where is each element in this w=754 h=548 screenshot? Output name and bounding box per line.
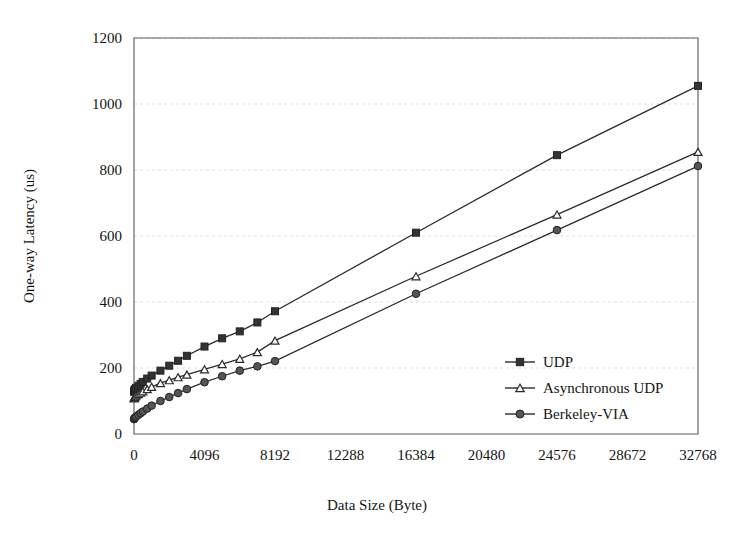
marker-filled-circle (183, 385, 191, 393)
marker-filled-square (157, 367, 164, 374)
y-tick-label: 0 (115, 426, 123, 442)
marker-filled-square (166, 362, 173, 369)
marker-filled-square (219, 335, 226, 342)
marker-filled-circle (271, 357, 279, 365)
marker-filled-circle (254, 363, 262, 371)
y-tick-label: 400 (100, 294, 123, 310)
marker-filled-circle (553, 226, 561, 234)
marker-filled-square (236, 328, 243, 335)
marker-filled-circle (165, 393, 173, 401)
x-tick-label: 28672 (609, 447, 647, 463)
latency-line-chart: 020040060080010001200 040968192122881638… (0, 0, 754, 548)
legend-label: Berkeley-VIA (543, 406, 629, 422)
marker-filled-square (201, 343, 208, 350)
y-tick-label: 1000 (92, 96, 122, 112)
x-tick-label: 12288 (327, 447, 365, 463)
marker-filled-square (183, 352, 190, 359)
x-tick-label: 32768 (679, 447, 717, 463)
y-tick-label: 1200 (92, 30, 122, 46)
x-axis-tick-labels: 040968192122881638420480245762867232768 (130, 447, 717, 463)
marker-filled-circle (236, 367, 244, 375)
marker-filled-square (413, 229, 420, 236)
marker-filled-circle (201, 378, 209, 386)
y-tick-label: 800 (100, 162, 123, 178)
marker-filled-square (175, 357, 182, 364)
x-tick-label: 24576 (538, 447, 576, 463)
x-axis-title: Data Size (Byte) (327, 497, 427, 514)
marker-filled-square (516, 358, 523, 365)
y-tick-label: 600 (100, 228, 123, 244)
x-tick-label: 8192 (260, 447, 290, 463)
marker-filled-circle (516, 410, 524, 418)
marker-filled-circle (218, 372, 226, 380)
chart-background (0, 0, 754, 548)
legend-label: Asynchronous UDP (543, 380, 663, 396)
marker-filled-circle (174, 389, 182, 397)
marker-filled-square (554, 152, 561, 159)
y-tick-label: 200 (100, 360, 123, 376)
x-tick-label: 0 (130, 447, 138, 463)
marker-filled-circle (694, 162, 702, 170)
marker-filled-circle (148, 402, 156, 410)
x-tick-label: 4096 (190, 447, 221, 463)
x-tick-label: 16384 (397, 447, 435, 463)
marker-filled-square (148, 372, 155, 379)
y-axis-title: One-way Latency (us) (21, 169, 38, 303)
marker-filled-circle (412, 290, 420, 298)
x-tick-label: 20480 (468, 447, 506, 463)
marker-filled-square (695, 82, 702, 89)
chart-container: 020040060080010001200 040968192122881638… (0, 0, 754, 548)
legend-label: UDP (543, 354, 573, 370)
marker-filled-circle (157, 397, 165, 405)
marker-filled-square (254, 319, 261, 326)
marker-filled-square (272, 308, 279, 315)
